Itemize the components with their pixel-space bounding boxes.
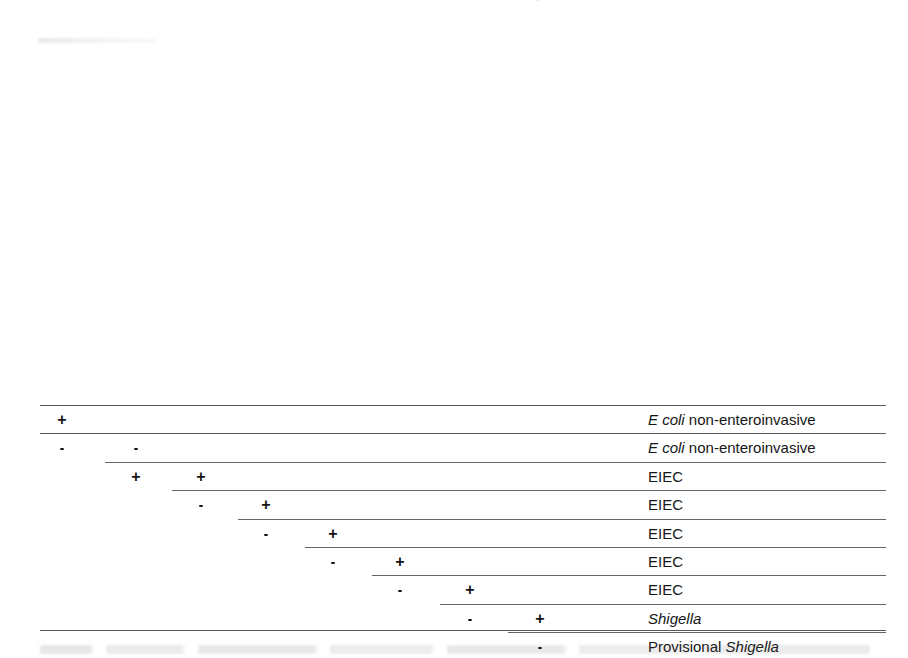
result-mark-ipah: - bbox=[127, 440, 146, 456]
result-mark-ipah: + bbox=[125, 469, 147, 485]
result-mark-gas_indol: + bbox=[389, 554, 411, 570]
result-mark-salicin: - bbox=[257, 526, 276, 542]
column-header-row: LDCaipaH-gene PCRbMotilitycSalicin, acid… bbox=[0, 0, 908, 408]
result-mark-esculin: - bbox=[324, 554, 343, 570]
cut-off-caption-remnant bbox=[40, 645, 870, 654]
result-mark-gas_indol: - bbox=[391, 582, 410, 598]
row-rule bbox=[305, 547, 886, 548]
result-mark-salicin: + bbox=[255, 497, 277, 513]
row-rule bbox=[440, 604, 886, 605]
row-result-label: EIEC bbox=[648, 582, 683, 597]
row-rule bbox=[40, 433, 886, 434]
row-result-label: EIEC bbox=[648, 554, 683, 569]
result-mark-motility: + bbox=[190, 469, 212, 485]
row-result-label: EIEC bbox=[648, 469, 683, 484]
row-result-label: E coli non-enteroinvasive bbox=[648, 440, 816, 455]
table-body: +E coli non-enteroinvasive--E coli non-e… bbox=[0, 404, 908, 636]
result-mark-agg_shigella: + bbox=[529, 611, 551, 627]
row-rule bbox=[238, 519, 886, 520]
result-mark-agg_eiec: - bbox=[461, 611, 480, 627]
row-rule bbox=[40, 405, 886, 406]
table-bottom-rule bbox=[40, 630, 886, 631]
row-result-label: E coli non-enteroinvasive bbox=[648, 412, 816, 427]
result-mark-esculin: + bbox=[322, 526, 344, 542]
row-rule bbox=[372, 575, 886, 576]
row-result-label: Shigella bbox=[648, 611, 701, 626]
row-result-label: EIEC bbox=[648, 497, 683, 512]
result-mark-ldc: + bbox=[51, 412, 73, 428]
row-result-label: EIEC bbox=[648, 526, 683, 541]
result-mark-motility: - bbox=[192, 497, 211, 513]
identification-table-figure: LDCaipaH-gene PCRbMotilitycSalicin, acid… bbox=[0, 0, 908, 658]
row-rule bbox=[172, 490, 886, 491]
row-rule bbox=[508, 632, 886, 633]
result-mark-ldc: - bbox=[53, 440, 72, 456]
row-rule bbox=[105, 462, 886, 463]
result-mark-agg_eiec: + bbox=[459, 582, 481, 598]
